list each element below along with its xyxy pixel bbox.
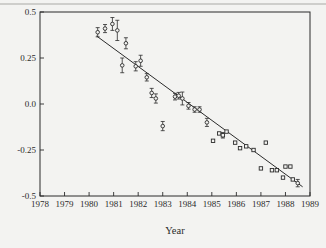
circle-marker bbox=[173, 95, 177, 99]
y-tick-label: -0.5 bbox=[22, 191, 37, 201]
data-point bbox=[296, 179, 300, 186]
circle-marker bbox=[96, 30, 100, 34]
square-marker bbox=[270, 169, 273, 172]
circle-marker bbox=[111, 22, 115, 26]
data-point bbox=[103, 25, 107, 33]
square-marker bbox=[217, 132, 220, 135]
y-tick-label: -0.25 bbox=[17, 145, 36, 155]
circle-marker bbox=[150, 91, 154, 95]
circle-marker bbox=[181, 97, 185, 101]
data-point bbox=[177, 92, 181, 99]
data-point bbox=[238, 146, 241, 149]
circle-marker bbox=[198, 108, 202, 112]
circle-marker bbox=[139, 59, 143, 63]
scatter-plot: 1978197919801981198219831984198519861987… bbox=[0, 0, 326, 248]
data-point bbox=[252, 148, 255, 151]
data-point bbox=[275, 169, 278, 172]
plot-frame bbox=[40, 12, 310, 196]
circle-marker bbox=[154, 97, 158, 101]
circle-marker bbox=[296, 181, 300, 185]
x-tick-label: 1979 bbox=[56, 199, 75, 209]
square-marker bbox=[291, 178, 294, 181]
data-point bbox=[145, 74, 149, 81]
data-point bbox=[211, 139, 214, 142]
circle-marker bbox=[103, 27, 107, 31]
data-point bbox=[120, 58, 124, 73]
circle-marker bbox=[134, 64, 138, 68]
plot-generated-content: 1978197919801981198219831984198519861987… bbox=[17, 7, 319, 209]
figure: 1978197919801981198219831984198519861987… bbox=[0, 0, 326, 248]
data-point bbox=[233, 141, 236, 144]
y-tick-label: 0.5 bbox=[25, 7, 37, 17]
data-point bbox=[259, 167, 262, 170]
data-point bbox=[217, 132, 220, 135]
data-point bbox=[198, 107, 202, 113]
circle-marker bbox=[124, 41, 128, 45]
x-tick-label: 1983 bbox=[154, 199, 173, 209]
data-point bbox=[281, 176, 284, 179]
circle-marker bbox=[120, 64, 124, 68]
data-point bbox=[150, 88, 154, 97]
data-point bbox=[289, 165, 292, 168]
data-point bbox=[180, 92, 184, 105]
square-marker bbox=[238, 146, 241, 149]
data-point bbox=[284, 165, 287, 168]
x-tick-label: 1981 bbox=[105, 199, 123, 209]
data-point bbox=[244, 145, 247, 148]
x-tick-label: 1988 bbox=[276, 199, 295, 209]
x-axis-title: Year bbox=[165, 225, 185, 236]
square-marker bbox=[281, 176, 284, 179]
square-marker bbox=[289, 165, 292, 168]
circle-marker bbox=[116, 29, 120, 33]
circle-marker bbox=[187, 104, 191, 108]
square-marker bbox=[225, 130, 228, 133]
circle-marker bbox=[161, 124, 165, 128]
data-point bbox=[270, 169, 273, 172]
x-tick-label: 1987 bbox=[252, 199, 271, 209]
square-marker bbox=[221, 134, 224, 137]
square-marker bbox=[252, 148, 255, 151]
data-point bbox=[291, 178, 294, 181]
data-point bbox=[110, 18, 114, 31]
y-tick-label: 0.0 bbox=[25, 99, 37, 109]
circle-marker bbox=[145, 76, 149, 80]
square-marker bbox=[284, 165, 287, 168]
data-point bbox=[225, 130, 228, 133]
data-point bbox=[124, 38, 128, 49]
y-tick-label: 0.25 bbox=[20, 53, 36, 63]
square-marker bbox=[244, 145, 247, 148]
data-point bbox=[187, 103, 191, 110]
data-point bbox=[264, 141, 267, 144]
data-point bbox=[205, 118, 209, 126]
x-tick-label: 1989 bbox=[301, 199, 320, 209]
data-point bbox=[193, 107, 197, 113]
data-point bbox=[221, 133, 225, 139]
square-marker bbox=[211, 139, 214, 142]
x-tick-label: 1982 bbox=[129, 199, 147, 209]
x-tick-label: 1980 bbox=[80, 199, 99, 209]
x-tick-label: 1984 bbox=[178, 199, 197, 209]
square-marker bbox=[259, 167, 262, 170]
square-marker bbox=[264, 141, 267, 144]
data-point bbox=[139, 55, 143, 66]
x-tick-label: 1985 bbox=[203, 199, 222, 209]
x-tick-label: 1986 bbox=[227, 199, 246, 209]
circle-marker bbox=[177, 94, 181, 98]
data-point bbox=[161, 121, 165, 130]
data-point bbox=[115, 20, 119, 40]
square-marker bbox=[275, 169, 278, 172]
circle-marker bbox=[193, 108, 197, 112]
data-point bbox=[154, 94, 158, 103]
data-point bbox=[96, 28, 100, 37]
square-marker bbox=[233, 141, 236, 144]
circle-marker bbox=[205, 121, 209, 125]
